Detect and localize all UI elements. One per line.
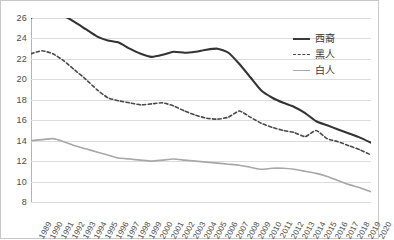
y-tick-label-16: 16 bbox=[3, 115, 27, 125]
y-axis-tick-labels: 2624222018161412108 bbox=[1, 18, 27, 202]
legend: 西裔黑人白人 bbox=[293, 32, 335, 77]
legend-label-1: 黑人 bbox=[315, 49, 335, 60]
gridline-8 bbox=[31, 202, 371, 203]
legend-item-1[interactable]: 黑人 bbox=[293, 48, 335, 61]
legend-label-2: 白人 bbox=[315, 65, 335, 76]
legend-swatch-icon-0 bbox=[293, 38, 310, 40]
legend-item-2[interactable]: 白人 bbox=[293, 64, 335, 77]
y-tick-label-14: 14 bbox=[3, 136, 27, 146]
x-axis-tick-labels: 1989199019911992199319941995199619971998… bbox=[31, 204, 371, 240]
legend-swatch-icon-1 bbox=[293, 54, 310, 55]
y-tick-label-18: 18 bbox=[3, 95, 27, 105]
legend-label-0: 西裔 bbox=[315, 33, 335, 44]
series-line-2 bbox=[31, 139, 371, 192]
y-tick-label-8: 8 bbox=[3, 197, 27, 207]
y-tick-label-22: 22 bbox=[3, 54, 27, 64]
legend-item-0[interactable]: 西裔 bbox=[293, 32, 335, 45]
y-tick-label-12: 12 bbox=[3, 156, 27, 166]
legend-swatch-icon-2 bbox=[293, 70, 310, 71]
y-tick-label-20: 20 bbox=[3, 74, 27, 84]
y-tick-label-10: 10 bbox=[3, 177, 27, 187]
y-tick-label-24: 24 bbox=[3, 33, 27, 43]
y-tick-label-26: 26 bbox=[3, 13, 27, 23]
